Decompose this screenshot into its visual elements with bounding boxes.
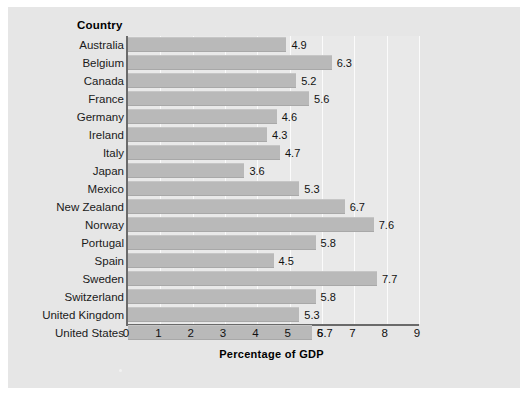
bar [128,127,267,142]
x-axis-tick-label: 9 [414,327,420,339]
x-axis-tick-label: 2 [187,327,193,339]
bar-row: 7.7 [128,270,419,288]
x-axis-tick-label: 0 [123,327,129,339]
bar-value-label: 5.2 [301,72,316,90]
x-axis-title: Percentage of GDP [126,348,417,360]
x-axis-tick-label: 6 [317,327,323,339]
x-axis-tick-label: 4 [252,327,258,339]
bar [128,217,374,232]
y-axis-title: Country [77,19,122,31]
x-axis-tick-labels: 0123456789 [126,327,417,343]
bar [128,55,332,70]
bar [128,163,244,178]
bar-row: 4.3 [128,126,419,144]
y-axis-category-labels: AustraliaBelgiumCanadaFranceGermanyIrela… [14,36,124,324]
bar-value-label: 5.6 [314,90,329,108]
bar-row: 3.6 [128,162,419,180]
bar-value-label: 6.7 [350,198,365,216]
y-axis-label: Italy [14,144,124,162]
y-axis-label: United Kingdom [14,306,124,324]
gridline [419,36,420,324]
bar-row: 5.2 [128,72,419,90]
x-axis-tick-label: 1 [155,327,161,339]
bar [128,235,316,250]
bar [128,307,299,322]
y-axis-label: Portugal [14,234,124,252]
bar-row: 5.8 [128,234,419,252]
y-axis-label: Norway [14,216,124,234]
y-axis-label: Sweden [14,270,124,288]
bar [128,289,316,304]
bar [128,253,274,268]
bar-row: 5.6 [128,90,419,108]
bar-value-label: 5.3 [304,306,319,324]
bar-row: 5.8 [128,288,419,306]
plot-area: 4.96.35.25.64.64.34.73.65.36.77.65.84.57… [126,36,419,326]
bar [128,271,377,286]
bar-value-label: 5.8 [321,234,336,252]
bar-value-label: 5.3 [304,180,319,198]
bar-value-label: 4.7 [285,144,300,162]
bar-row: 6.3 [128,54,419,72]
y-axis-label: Australia [14,36,124,54]
y-axis-label: Canada [14,72,124,90]
y-axis-label: Mexico [14,180,124,198]
bar-row: 5.3 [128,306,419,324]
y-axis-label: Ireland [14,126,124,144]
bar [128,199,345,214]
x-axis-tick-label: 7 [349,327,355,339]
bar-value-label: 4.3 [272,126,287,144]
y-axis-label: France [14,90,124,108]
x-axis-tick-label: 5 [284,327,290,339]
y-axis-label: United States [14,324,124,342]
bar-series: 4.96.35.25.64.64.34.73.65.36.77.65.84.57… [128,36,419,324]
bar-row: 4.7 [128,144,419,162]
bar-row: 5.3 [128,180,419,198]
bar [128,91,309,106]
bar-value-label: 4.6 [282,108,297,126]
bar-row: 6.7 [128,198,419,216]
bar-value-label: 4.5 [279,252,294,270]
x-axis-tick-label: 3 [220,327,226,339]
y-axis-label: Japan [14,162,124,180]
bar [128,145,280,160]
bar-value-label: 7.6 [379,216,394,234]
bar-value-label: 6.3 [337,54,352,72]
horizontal-bar-chart: Country AustraliaBelgiumCanadaFranceGerm… [0,0,528,396]
y-axis-label: Belgium [14,54,124,72]
y-axis-label: New Zealand [14,198,124,216]
x-axis-tick-label: 8 [381,327,387,339]
bar [128,181,299,196]
y-axis-label: Germany [14,108,124,126]
scan-artifact-speck [119,369,122,372]
bar [128,73,296,88]
bar-value-label: 3.6 [249,162,264,180]
bar [128,109,277,124]
bar [128,37,286,52]
bar-value-label: 4.9 [291,36,306,54]
y-axis-label: Spain [14,252,124,270]
bar-row: 7.6 [128,216,419,234]
bar-row: 4.5 [128,252,419,270]
chart-screenshot: Country AustraliaBelgiumCanadaFranceGerm… [0,0,528,396]
bar-value-label: 7.7 [382,270,397,288]
bar-value-label: 5.8 [321,288,336,306]
y-axis-label: Switzerland [14,288,124,306]
bar-row: 4.9 [128,36,419,54]
bar-row: 4.6 [128,108,419,126]
